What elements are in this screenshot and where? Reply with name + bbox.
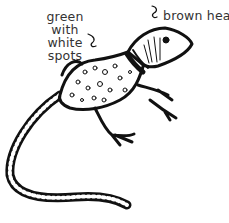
label-head-color: brown head <box>163 9 229 22</box>
label-body-color: green with white spots <box>33 10 97 62</box>
label-line: green with <box>33 10 97 36</box>
arrow-head <box>152 6 157 18</box>
label-line: spots <box>33 49 97 62</box>
lizard-illustration: green with white spots brown head <box>0 0 229 223</box>
lizard-tail <box>10 95 127 205</box>
